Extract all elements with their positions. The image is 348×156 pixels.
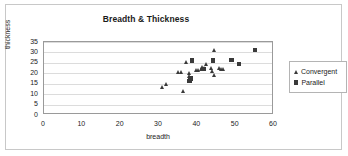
plot-area bbox=[43, 41, 273, 114]
chart-container: Breadth & Thickness thickness breadth Co… bbox=[5, 4, 342, 150]
y-axis-tick-label: 35 bbox=[16, 38, 38, 45]
data-point-parallel bbox=[188, 76, 192, 80]
legend-item-parallel[interactable]: Parallel bbox=[293, 77, 343, 88]
x-axis-tick-label: 0 bbox=[31, 120, 55, 127]
data-point-convergent bbox=[212, 73, 216, 77]
gridline bbox=[44, 52, 272, 53]
x-axis-tick-label: 10 bbox=[69, 120, 93, 127]
legend-label: Convergent bbox=[301, 68, 337, 75]
x-axis-label: breadth bbox=[43, 133, 273, 140]
chart-legend: Convergent Parallel bbox=[289, 61, 347, 93]
data-point-parallel bbox=[202, 67, 206, 71]
data-point-convergent bbox=[221, 67, 225, 71]
y-axis-tick-label: 30 bbox=[16, 48, 38, 55]
gridline bbox=[44, 73, 272, 74]
chart-title: Breadth & Thickness bbox=[6, 14, 286, 24]
y-axis-tick-label: 20 bbox=[16, 69, 38, 76]
y-axis-tick-label: 25 bbox=[16, 58, 38, 65]
data-point-parallel bbox=[190, 58, 194, 62]
legend-item-convergent[interactable]: Convergent bbox=[293, 66, 343, 77]
data-point-convergent bbox=[212, 48, 216, 52]
data-point-parallel bbox=[253, 48, 257, 52]
square-marker-icon bbox=[294, 80, 298, 84]
gridline bbox=[44, 94, 272, 95]
x-axis-tick-label: 50 bbox=[223, 120, 247, 127]
y-axis-tick-label: 0 bbox=[16, 111, 38, 118]
x-axis-tick-label: 20 bbox=[108, 120, 132, 127]
data-point-convergent bbox=[179, 70, 183, 74]
data-point-convergent bbox=[164, 82, 168, 86]
triangle-marker-icon bbox=[294, 70, 298, 74]
x-axis-tick-label: 60 bbox=[261, 120, 285, 127]
y-axis-label: thickness bbox=[4, 20, 11, 49]
data-point-convergent bbox=[204, 62, 208, 66]
x-axis-tick-label: 40 bbox=[184, 120, 208, 127]
data-point-parallel bbox=[237, 62, 241, 66]
data-point-parallel bbox=[229, 58, 233, 62]
data-point-convergent bbox=[181, 89, 185, 93]
gridline bbox=[44, 105, 272, 106]
data-point-parallel bbox=[211, 58, 215, 62]
y-axis-tick-label: 15 bbox=[16, 79, 38, 86]
y-axis-tick-label: 10 bbox=[16, 90, 38, 97]
y-axis-tick-label: 5 bbox=[16, 100, 38, 107]
data-point-convergent bbox=[184, 60, 188, 64]
gridline bbox=[44, 42, 272, 43]
legend-label: Parallel bbox=[301, 79, 324, 86]
gridline bbox=[44, 84, 272, 85]
x-axis-tick-label: 30 bbox=[146, 120, 170, 127]
